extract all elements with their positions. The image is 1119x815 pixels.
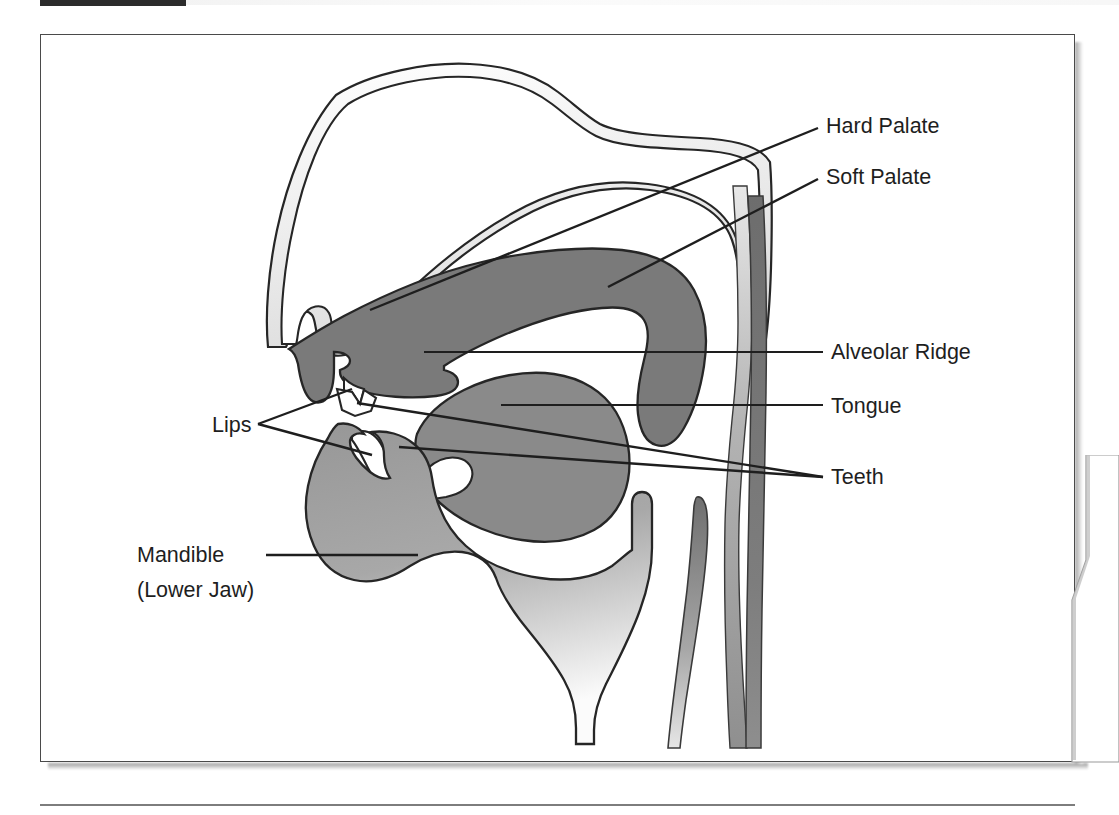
- page-curl-group: [1072, 455, 1119, 788]
- label-mandible-sub: (Lower Jaw): [137, 578, 254, 602]
- epiglottis-shape: [668, 497, 708, 748]
- label-lips: Lips: [212, 413, 251, 437]
- label-alveolar-ridge: Alveolar Ridge: [831, 340, 971, 364]
- label-teeth: Teeth: [831, 465, 884, 489]
- label-hard-palate: Hard Palate: [826, 114, 940, 138]
- diagram-canvas: Hard Palate Soft Palate Alveolar Ridge T…: [0, 0, 1119, 815]
- label-soft-palate: Soft Palate: [826, 165, 931, 189]
- scanned-page: Hard Palate Soft Palate Alveolar Ridge T…: [0, 0, 1119, 815]
- page-curl-fold: [1072, 455, 1119, 762]
- lips-fork-upper: [258, 389, 352, 424]
- label-mandible: Mandible: [137, 543, 224, 567]
- label-tongue: Tongue: [831, 394, 902, 418]
